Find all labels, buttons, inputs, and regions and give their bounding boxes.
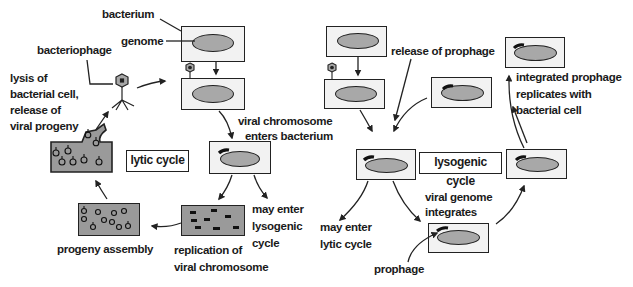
diagram-arrows-and-glyphs bbox=[0, 0, 633, 287]
arrow-cell-to-integration bbox=[393, 181, 420, 221]
leader-bacteriophage bbox=[87, 60, 113, 84]
viral-chromosome-copies bbox=[190, 209, 239, 230]
arrow-integration-to-right bbox=[496, 186, 524, 224]
arrow-replication-to-assembly bbox=[152, 223, 181, 227]
arrow-cell3-to-replication bbox=[219, 175, 232, 199]
arrow-cell2-to-lysocell bbox=[360, 110, 372, 131]
attached-phage-icon bbox=[186, 63, 194, 78]
arrow-cell2-to-cell3 bbox=[219, 111, 232, 138]
viral-chromosome-icon bbox=[219, 150, 229, 153]
arrow-assembly-to-lysis bbox=[96, 181, 107, 199]
arrow-dividing-up bbox=[509, 76, 524, 148]
prophage-icon bbox=[443, 86, 453, 89]
arrow-cell-to-may-lytic bbox=[340, 181, 368, 220]
prophage-icon bbox=[516, 157, 526, 160]
attached-phage-icon bbox=[328, 63, 336, 79]
arrow-prophage-label bbox=[408, 233, 437, 262]
prophage-icon bbox=[514, 45, 524, 48]
viral-chromosome-icon bbox=[364, 157, 374, 160]
assembling-phages bbox=[82, 206, 131, 230]
arrow-phage-to-cell bbox=[137, 81, 165, 88]
arrow-cell3-to-lysogenic bbox=[254, 175, 267, 198]
arrow-release-prophage bbox=[395, 59, 411, 120]
bacteriophage-icon bbox=[112, 74, 134, 110]
prophage-icon bbox=[437, 228, 448, 231]
leader-bacterium bbox=[160, 19, 181, 31]
